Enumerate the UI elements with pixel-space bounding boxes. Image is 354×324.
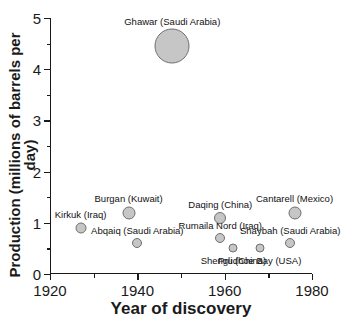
x-tick-1930	[94, 274, 95, 278]
bubble-abqaiq-saudi-arabia[interactable]	[132, 238, 142, 248]
y-tick-2	[44, 172, 50, 173]
point-label-shaybah-saudi-arabia: Shaybah (Saudi Arabia)	[240, 226, 340, 236]
y-tick-2.5	[47, 146, 51, 147]
y-tick-3.5	[47, 95, 51, 96]
x-tick-1940	[137, 274, 138, 280]
bubble-cantarell-mexico[interactable]	[288, 206, 301, 219]
point-label-abqaiq-saudi-arabia: Abqaiq (Saudi Arabia)	[91, 226, 183, 236]
bubble-shengli-china[interactable]	[229, 244, 238, 253]
y-axis-line	[50, 18, 51, 274]
point-label-kirkuk-iraq: Kirkuk (Iraq)	[55, 210, 107, 220]
point-label-cantarell-mexico: Cantarell (Mexico)	[256, 194, 333, 204]
x-tick-1920	[50, 274, 51, 280]
point-label-daqing-china: Daqing (China)	[188, 199, 252, 209]
x-tick-label-1940: 1940	[121, 283, 154, 298]
point-label-prudhoe-bay-usa: Prudhoe Bay (USA)	[218, 256, 301, 266]
x-tick-label-1980: 1980	[295, 283, 328, 298]
y-axis-title: Production (millions of barrels per day)	[7, 30, 37, 280]
y-tick-1.5	[47, 197, 51, 198]
point-label-burgan-kuwait: Burgan (Kuwait)	[95, 194, 163, 204]
y-tick-3	[44, 120, 50, 121]
bubble-ghawar-saudi-arabia[interactable]	[155, 29, 190, 64]
x-axis-title: Year of discovery	[50, 300, 312, 317]
bubble-kirkuk-iraq[interactable]	[75, 222, 86, 233]
plot-area: 012345 1920194019601980 Kirkuk (Iraq)Bur…	[50, 18, 312, 274]
point-label-ghawar-saudi-arabia: Ghawar (Saudi Arabia)	[124, 16, 220, 26]
y-tick-5	[44, 18, 50, 19]
bubble-burgan-kuwait[interactable]	[122, 206, 135, 219]
bubble-shaybah-saudi-arabia[interactable]	[285, 238, 295, 248]
x-tick-1950	[181, 274, 182, 278]
bubble-prudhoe-bay-usa[interactable]	[255, 244, 264, 253]
x-tick-label-1960: 1960	[208, 283, 241, 298]
bubble-rumaila-nord-iraq[interactable]	[215, 233, 225, 243]
x-tick-1980	[312, 274, 313, 280]
x-tick-1970	[268, 274, 269, 278]
y-tick-label-5: 5	[33, 11, 41, 26]
y-tick-4	[44, 69, 50, 70]
y-tick-0.5	[47, 248, 51, 249]
y-tick-4.5	[47, 44, 51, 45]
bubble-chart: 012345 1920194019601980 Kirkuk (Iraq)Bur…	[0, 0, 354, 324]
x-tick-label-1920: 1920	[33, 283, 66, 298]
x-tick-1960	[225, 274, 226, 280]
y-tick-1	[44, 223, 50, 224]
